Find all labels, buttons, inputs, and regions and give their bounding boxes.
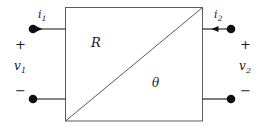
right-bottom-terminal-dot [227, 95, 236, 104]
right-current-symbol: i [214, 8, 218, 21]
right-voltage-symbol: v [239, 59, 246, 73]
resistance-label: R [91, 36, 101, 49]
right-current-subscript: 2 [218, 14, 223, 23]
left-current-symbol: i [38, 8, 42, 21]
left-current-arrowhead [36, 26, 43, 32]
right-current-label: i2 [214, 9, 222, 20]
left-plus-sign: + [15, 38, 26, 51]
left-voltage-symbol: v [14, 59, 21, 73]
right-top-terminal-dot [227, 25, 236, 34]
right-plus-sign: + [240, 38, 251, 51]
right-minus-sign: − [240, 84, 251, 97]
right-voltage-subscript: 2 [246, 65, 251, 75]
left-current-subscript: 1 [42, 14, 47, 23]
left-voltage-label: v1 [14, 60, 26, 72]
left-current-label: i1 [38, 9, 46, 20]
left-bottom-terminal-dot [29, 95, 38, 104]
right-voltage-label: v2 [239, 60, 251, 72]
right-current-arrowhead [212, 26, 219, 32]
box-diagonal-line [66, 8, 203, 122]
left-voltage-subscript: 1 [21, 65, 26, 75]
circuit-diagram: i1 i2 + v1 − + v2 − R θ [0, 0, 264, 128]
theta-label: θ [152, 77, 159, 89]
left-minus-sign: − [15, 84, 26, 97]
